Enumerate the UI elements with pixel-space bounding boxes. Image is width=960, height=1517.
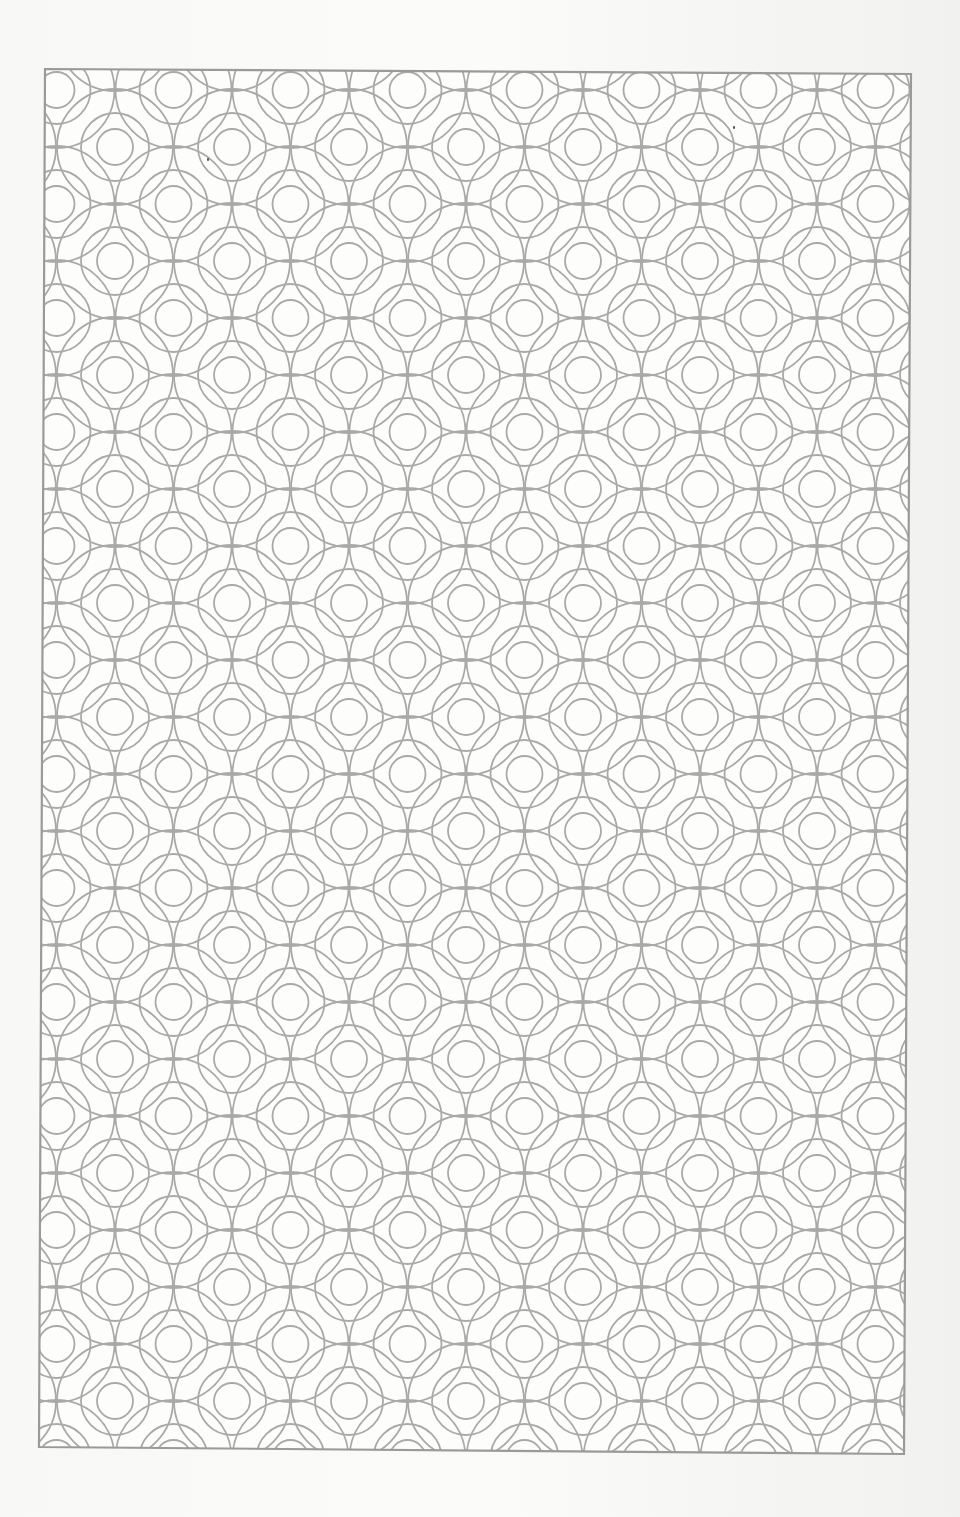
scan-speck: [733, 126, 735, 129]
circle-pattern-artwork: [0, 0, 960, 1517]
pattern-fill: [0, 0, 960, 1517]
scan-speck: [207, 158, 209, 161]
